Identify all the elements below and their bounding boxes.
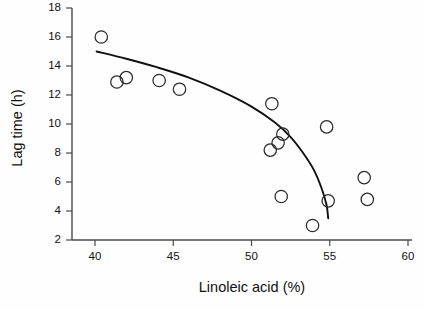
fit-curve [97,52,329,219]
y-axis-title: Lag time (h) [9,89,25,166]
data-point [153,74,165,86]
data-point [322,195,334,207]
y-tick-label: 14 [48,59,61,71]
x-axis-title: Linoleic acid (%) [199,279,305,295]
data-point [320,121,332,133]
scatter-plot: Lag time (h) Linoleic acid (%) 246810121… [0,0,425,310]
y-tick-label: 16 [48,30,61,42]
data-point [266,98,278,110]
x-tick-label: 60 [402,250,415,262]
data-point [358,171,370,183]
y-tick-label: 12 [48,88,61,100]
y-tick-label: 18 [48,1,61,13]
chart-figure: Lag time (h) Linoleic acid (%) 246810121… [0,0,425,310]
data-point [275,190,287,202]
x-tick-label: 55 [323,250,336,262]
x-tick-label: 45 [167,250,180,262]
data-point [95,31,107,43]
fit-curve-group [97,52,329,219]
y-tick-label: 8 [55,146,61,158]
data-point [306,219,318,231]
y-tick-label: 4 [55,204,62,216]
data-point [264,144,276,156]
data-point [361,193,373,205]
y-tick-label: 2 [55,233,61,245]
x-tick-label: 40 [89,250,102,262]
y-tick-label: 10 [48,117,61,129]
data-point [173,83,185,95]
x-tick-group: 4045505560 [89,240,415,262]
x-tick-label: 50 [245,250,258,262]
y-tick-label: 6 [55,175,61,187]
y-tick-group: 24681012141618 [48,1,72,245]
